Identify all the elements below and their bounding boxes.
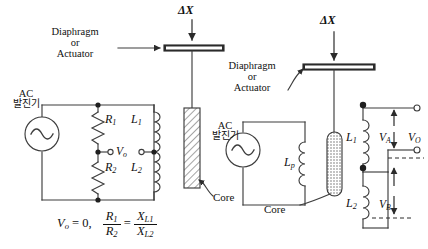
right-l1-label: L1 (346, 131, 357, 145)
left-diaphragm-line2: or (32, 37, 118, 48)
right-diaphragm-bar (303, 64, 375, 70)
right-ac-line2: 발진기 (204, 131, 246, 142)
left-equation: Vo = 0, R1 R2 = XL1 XL2 (57, 210, 157, 239)
right-l2-label: L2 (346, 197, 357, 211)
eq-frac-x: XL1 XL2 (134, 210, 157, 239)
left-diaphragm-line1: Diaphragm (32, 26, 118, 37)
eq-equals-zero: = 0, (72, 216, 92, 230)
eq-equals: = (124, 216, 131, 230)
left-ac-source (25, 117, 59, 151)
right-displacement-label: ΔX (320, 14, 336, 27)
right-l1-inductor (363, 108, 369, 172)
right-diaphragm-line1: Diaphragm (213, 60, 291, 71)
left-displacement-label: ΔX (178, 4, 194, 17)
right-core-label: Core (264, 204, 285, 216)
left-r2-resistor (92, 152, 104, 200)
right-diaphragm-line2: or (213, 71, 291, 82)
right-lp-inductor (299, 142, 305, 186)
right-diaphragm-label: Diaphragm or Actuator (213, 60, 291, 93)
left-ac-line2: 발진기 (4, 99, 48, 110)
right-output-lead-b (363, 150, 415, 172)
eq-frac-r: R1 R2 (103, 210, 121, 239)
figure-canvas: ΔX Diaphragm or Actuator AC 발진기 R1 R2 L1… (0, 0, 428, 249)
left-core-label: Core (213, 192, 234, 204)
left-l2-label: L2 (131, 161, 142, 175)
left-diaphragm-bar (164, 45, 224, 51)
left-r1-resistor (92, 105, 104, 152)
right-diaphragm-line3: Actuator (213, 82, 291, 93)
left-l1-inductor (154, 105, 160, 152)
eq-vo: Vo (57, 216, 72, 230)
right-vb-label: VB (379, 198, 391, 212)
left-l2-inductor (154, 152, 160, 200)
right-ac-source-label: AC 발진기 (204, 120, 246, 142)
left-core-callout (199, 180, 213, 196)
right-lp-label: Lp (284, 156, 295, 170)
left-vo-label: Vo (116, 145, 127, 159)
right-vo-label: VO (408, 131, 421, 145)
right-output-terminals (414, 105, 420, 153)
right-va-label: VA (379, 131, 391, 145)
left-core (184, 108, 200, 188)
left-r2-label: R2 (105, 161, 116, 175)
left-l1-label: L1 (131, 113, 142, 127)
left-r1-label: R1 (105, 113, 116, 127)
left-diaphragm-label: Diaphragm or Actuator (32, 26, 118, 59)
left-ac-source-label: AC 발진기 (4, 88, 48, 110)
left-diaphragm-line3: Actuator (32, 48, 118, 59)
right-core (327, 132, 342, 196)
